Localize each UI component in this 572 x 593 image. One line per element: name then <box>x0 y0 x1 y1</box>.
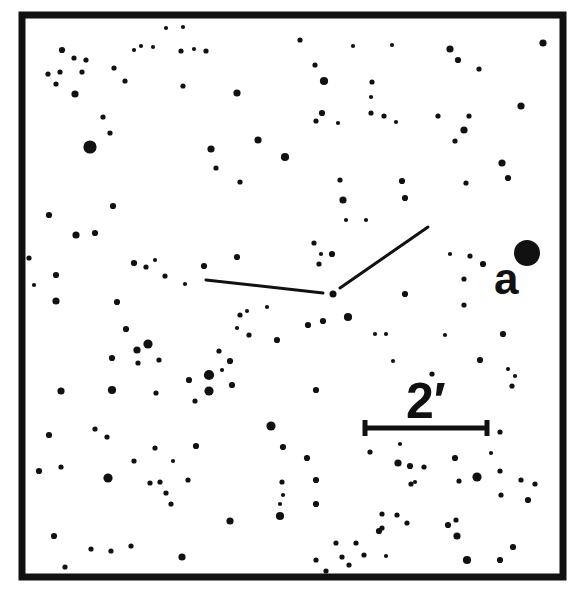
star <box>532 481 537 486</box>
star <box>394 120 398 124</box>
star <box>455 57 461 63</box>
star <box>133 346 140 353</box>
star <box>128 543 133 548</box>
star <box>399 178 405 184</box>
scale-bar-label: 2′ <box>406 373 446 429</box>
star <box>367 449 372 454</box>
star <box>32 283 36 287</box>
star <box>461 302 466 307</box>
star <box>266 421 275 430</box>
star <box>103 473 112 482</box>
star <box>131 260 137 266</box>
star <box>151 45 155 49</box>
star <box>123 326 129 332</box>
star <box>185 477 190 482</box>
label-a: a <box>494 254 519 303</box>
star <box>143 339 152 348</box>
star <box>505 175 511 181</box>
star <box>351 44 355 48</box>
star <box>168 501 173 506</box>
star <box>361 552 366 557</box>
star <box>369 79 374 84</box>
star <box>220 368 224 372</box>
star <box>143 264 148 269</box>
star <box>213 165 218 170</box>
star <box>381 113 386 118</box>
star <box>162 273 167 278</box>
star <box>153 390 158 395</box>
star <box>53 272 59 278</box>
star <box>100 114 105 119</box>
star <box>344 313 352 321</box>
star <box>131 458 136 463</box>
star <box>110 203 116 209</box>
star <box>79 69 84 74</box>
star <box>353 540 358 545</box>
star <box>71 90 78 97</box>
star <box>108 548 113 553</box>
chart-background <box>0 0 572 593</box>
star <box>480 261 486 267</box>
star <box>384 554 388 558</box>
star <box>472 472 481 481</box>
star <box>394 512 399 517</box>
star <box>278 502 282 506</box>
star <box>279 479 284 484</box>
star <box>316 261 321 266</box>
star <box>320 77 328 85</box>
star <box>376 528 382 534</box>
star <box>92 426 97 431</box>
star <box>147 480 152 485</box>
star <box>193 443 199 449</box>
star <box>274 337 280 343</box>
star <box>104 434 109 439</box>
star <box>192 47 196 51</box>
star <box>201 263 207 269</box>
star <box>452 455 458 461</box>
star <box>227 358 233 364</box>
star <box>207 145 214 152</box>
star <box>384 332 388 336</box>
star <box>114 299 120 305</box>
star <box>312 62 317 67</box>
star <box>164 26 168 30</box>
star <box>498 159 505 166</box>
star <box>394 459 401 466</box>
star <box>339 554 344 559</box>
star <box>109 355 115 361</box>
star <box>402 291 408 297</box>
star <box>506 367 510 371</box>
star <box>313 557 318 562</box>
star <box>453 517 458 522</box>
star <box>518 477 523 482</box>
star <box>183 282 187 286</box>
star <box>461 276 466 281</box>
star <box>313 387 319 393</box>
star <box>500 331 506 337</box>
star <box>391 359 395 363</box>
star <box>237 179 242 184</box>
star <box>71 55 76 60</box>
star <box>467 253 472 258</box>
star <box>36 468 42 474</box>
star <box>52 297 59 304</box>
star <box>83 57 88 62</box>
star <box>466 113 471 118</box>
star <box>229 382 235 388</box>
star <box>448 252 452 256</box>
star <box>329 251 335 257</box>
finder-chart: a 2′ <box>0 0 572 593</box>
star <box>435 113 440 118</box>
star <box>216 348 221 353</box>
star <box>456 478 461 483</box>
star <box>497 557 503 563</box>
star <box>72 231 79 238</box>
star <box>319 252 323 256</box>
star <box>344 218 348 222</box>
star <box>254 136 261 143</box>
star <box>339 196 346 203</box>
star <box>83 140 96 153</box>
star <box>281 153 289 161</box>
star <box>443 333 447 337</box>
star <box>313 477 319 483</box>
